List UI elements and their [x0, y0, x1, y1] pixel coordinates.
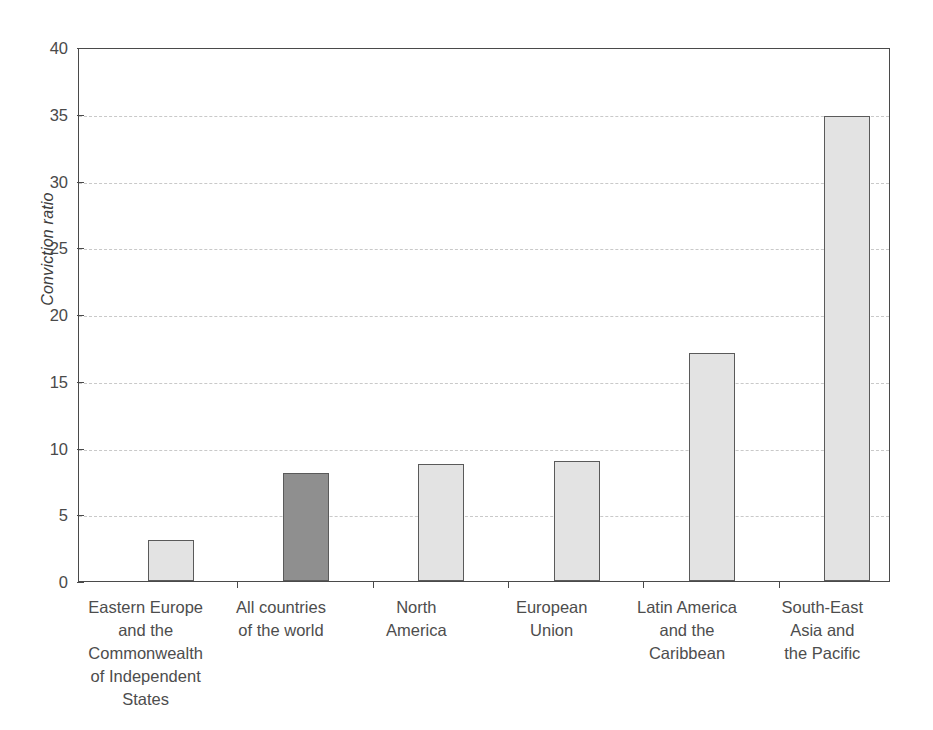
bar-1	[283, 473, 329, 581]
y-tick-label: 15	[10, 372, 68, 391]
y-tick-mark	[77, 115, 84, 116]
bar-3	[554, 461, 600, 581]
y-tick-mark	[77, 449, 84, 450]
y-tick-label: 5	[10, 506, 68, 525]
gridline	[79, 316, 889, 317]
y-tick-mark	[77, 315, 84, 316]
gridline	[79, 450, 889, 451]
x-axis-label-line: Commonwealth	[64, 642, 227, 665]
bar-chart: Conviction ratio 0510152025303540 Easter…	[0, 0, 933, 730]
y-tick-mark	[77, 248, 84, 249]
y-tick-label: 40	[10, 39, 68, 58]
gridline	[79, 116, 889, 117]
y-tick-label: 35	[10, 105, 68, 124]
gridline	[79, 249, 889, 250]
gridline	[79, 516, 889, 517]
x-tick-mark	[779, 581, 780, 588]
y-tick-mark	[77, 582, 84, 583]
x-axis-label-line: of Independent	[64, 665, 227, 688]
x-axis-label-5: South-EastAsia andthe Pacific	[741, 596, 904, 665]
x-tick-mark	[237, 581, 238, 588]
bar-2	[418, 464, 464, 581]
y-tick-mark	[77, 515, 84, 516]
y-tick-label: 20	[10, 306, 68, 325]
bar-4	[689, 353, 735, 581]
x-axis-label-line: South-East	[741, 596, 904, 619]
x-axis-label-line: Asia and	[741, 619, 904, 642]
y-tick-label: 10	[10, 439, 68, 458]
plot-area	[78, 48, 890, 582]
y-tick-label: 0	[10, 573, 68, 592]
gridline	[79, 383, 889, 384]
bar-5	[824, 116, 870, 581]
x-axis-label-line: the Pacific	[741, 642, 904, 665]
x-axis-label-line: States	[64, 688, 227, 711]
x-tick-mark	[643, 581, 644, 588]
x-tick-mark	[508, 581, 509, 588]
bar-0	[148, 540, 194, 581]
y-tick-label: 30	[10, 172, 68, 191]
y-tick-mark	[77, 182, 84, 183]
x-tick-mark	[373, 581, 374, 588]
y-tick-mark	[77, 382, 84, 383]
y-tick-mark	[77, 48, 84, 49]
y-tick-label: 25	[10, 239, 68, 258]
gridline	[79, 183, 889, 184]
